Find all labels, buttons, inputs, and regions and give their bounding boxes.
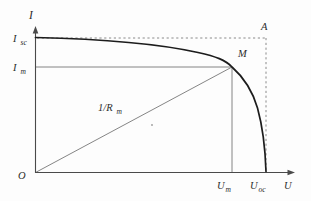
load-line-slope-label: 1/R [98,102,113,113]
uoc-label-subscript: oc [259,185,267,194]
load-line [36,67,233,173]
x-axis-label: U [284,180,293,191]
isc-label-subscript: sc [21,38,28,47]
im-label-subscript: m [21,67,27,76]
iv-curve [36,38,267,172]
iv-characteristic-figure: I I sc I m A M 1/R m O U m U oc U [0,0,311,201]
point-m-label: M [237,48,248,59]
load-line-slope-subscript: m [117,107,123,116]
y-axis-label: I [28,9,34,21]
stray-print-dot [151,124,153,126]
im-label: I [12,62,17,73]
um-label-subscript: m [226,185,232,194]
y-axis-arrowhead [33,26,39,34]
iv-characteristic-svg: I I sc I m A M 1/R m O U m U oc U [0,0,311,201]
isc-label: I [12,33,17,44]
x-axis-arrowhead [288,170,296,176]
origin-label: O [18,170,26,181]
point-a-label: A [260,21,268,32]
